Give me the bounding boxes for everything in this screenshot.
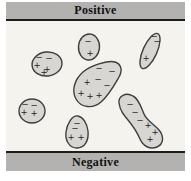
plus-charge-label: + xyxy=(77,132,84,142)
particle-top-right: −−+ xyxy=(136,31,164,71)
particle-bottom-middle: −−++ xyxy=(66,116,88,148)
minus-charge-label: − xyxy=(136,115,143,125)
plus-charge-label: + xyxy=(142,53,149,63)
plus-charge-label: + xyxy=(77,88,84,98)
minus-charge-label: − xyxy=(94,74,101,84)
minus-charge-label: − xyxy=(45,53,52,63)
capacitor-apparatus: Positive −−+++−+−−+−−−−++++−−++−−++−−−++… xyxy=(6,2,185,171)
negative-plate-label: Negative xyxy=(72,155,119,169)
positive-plate: Positive xyxy=(6,2,185,21)
particle-top-middle: −+ xyxy=(78,33,101,60)
minus-charge-label: − xyxy=(84,36,91,46)
particle-bottom-right: −−−+++ xyxy=(119,94,163,148)
minus-charge-label: − xyxy=(108,66,115,76)
negative-plate: Negative xyxy=(6,151,185,171)
plus-charge-label: + xyxy=(86,48,93,58)
particle-center: −−−−++++ xyxy=(74,62,121,107)
plus-charge-label: + xyxy=(83,77,90,87)
plus-charge-label: + xyxy=(67,132,74,142)
minus-charge-label: − xyxy=(103,80,110,90)
minus-charge-label: − xyxy=(95,63,102,73)
plus-charge-label: + xyxy=(30,108,37,118)
diagram-canvas: Positive −−+++−+−−+−−−−++++−−++−−++−−−++… xyxy=(0,0,191,181)
plus-charge-label: + xyxy=(20,107,27,117)
plus-charge-label: + xyxy=(95,90,102,100)
polarized-particles-drawing: −−+++−+−−+−−−−++++−−++−−++−−−+++ xyxy=(6,21,185,151)
positive-plate-label: Positive xyxy=(74,3,116,17)
plus-charge-label: + xyxy=(40,67,47,77)
particle-top-left: −−+++ xyxy=(31,50,63,77)
plus-charge-label: + xyxy=(86,91,93,101)
minus-charge-label: − xyxy=(153,36,160,46)
particle-left: −−++ xyxy=(19,99,45,123)
plus-charge-label: + xyxy=(146,134,153,144)
field-region: −−+++−+−−+−−−−++++−−++−−++−−−+++ xyxy=(6,21,185,151)
